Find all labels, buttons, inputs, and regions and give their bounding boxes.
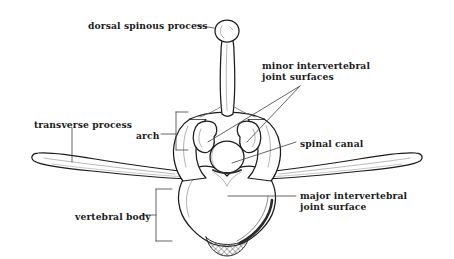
label-minor-line-1: minor intervertebral [262, 60, 370, 71]
label-arch: arch [136, 130, 159, 141]
label-spinal-canal: spinal canal [300, 138, 363, 149]
label-major-line-1: major intervertebral [300, 190, 407, 201]
vertebra-diagram: dorsal spinous process minor interverteb… [0, 0, 454, 259]
label-minor-line-2: joint surfaces [262, 71, 334, 82]
transverse-process-right [258, 153, 422, 179]
label-major-line-2: joint surface [300, 201, 366, 212]
label-vertebral-body: vertebral body [75, 211, 151, 222]
label-dorsal-spinous-process: dorsal spinous process [88, 20, 208, 31]
dorsal-spinous-process [200, 20, 255, 117]
transverse-process-left [32, 153, 196, 179]
label-major-intervertebral-joint-surface: major intervertebraljoint surface [300, 190, 420, 213]
label-transverse-process: transverse process [34, 119, 132, 130]
spinal-canal [210, 141, 244, 173]
label-minor-intervertebral-joint-surfaces: minor intervertebraljoint surfaces [262, 60, 372, 83]
